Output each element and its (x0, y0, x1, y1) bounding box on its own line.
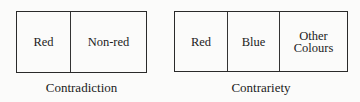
cell-red: Red (17, 12, 70, 72)
contradiction-caption: Contradiction (16, 80, 147, 96)
cell-other-colours: Other Colours (279, 12, 347, 71)
contrariety-caption: Contrariety (174, 80, 348, 96)
cell-blue: Blue (227, 12, 279, 71)
contrariety-box: Red Blue Other Colours (174, 11, 348, 72)
cell-red: Red (175, 12, 227, 71)
other-line1: Other (299, 30, 327, 42)
cell-non-red: Non-red (70, 12, 146, 72)
contradiction-box: Red Non-red (16, 11, 147, 73)
other-line2: Colours (294, 42, 334, 54)
